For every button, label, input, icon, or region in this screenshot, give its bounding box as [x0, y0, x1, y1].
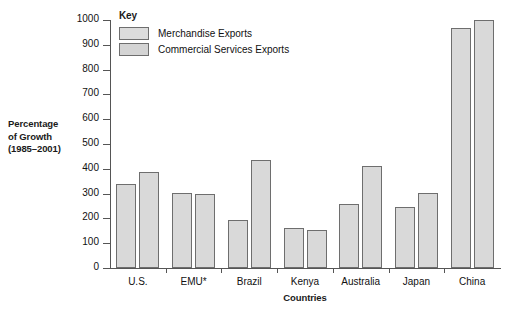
- legend-label-merchandise: Merchandise Exports: [158, 28, 252, 39]
- y-axis-tick: 1000: [103, 20, 110, 21]
- x-axis-tick: [221, 269, 222, 273]
- bar: [195, 194, 215, 268]
- legend-item-merchandise: Merchandise Exports: [119, 27, 289, 40]
- y-axis-tick-label: 600: [82, 112, 99, 123]
- y-axis-tick-label: 0: [93, 261, 99, 272]
- y-axis-tick-label: 500: [82, 137, 99, 148]
- legend: Key Merchandise Exports Commercial Servi…: [119, 10, 289, 59]
- bar: [251, 160, 271, 268]
- y-axis-line: [110, 20, 111, 269]
- y-axis-tick: 200: [103, 218, 110, 219]
- bar: [172, 193, 192, 268]
- bar: [139, 172, 159, 268]
- x-axis-category-label: Australia: [333, 276, 389, 287]
- x-axis-tick: [333, 269, 334, 273]
- y-axis-title-line-3: (1985–2001): [8, 143, 82, 156]
- y-axis-title: Percentage of Growth (1985–2001): [8, 118, 82, 156]
- bar: [474, 20, 494, 268]
- x-axis-category-label: China: [444, 276, 500, 287]
- legend-swatch-merchandise-icon: [119, 27, 149, 40]
- x-axis-category-label: U.S.: [110, 276, 166, 287]
- y-axis-tick-label: 800: [82, 63, 99, 74]
- y-axis-tick-label: 400: [82, 162, 99, 173]
- y-axis-tick-label: 300: [82, 187, 99, 198]
- bar: [418, 193, 438, 268]
- y-axis-tick-label: 200: [82, 211, 99, 222]
- y-axis-tick: 300: [103, 194, 110, 195]
- bar: [395, 207, 415, 268]
- x-axis-category-label: Kenya: [277, 276, 333, 287]
- y-axis-tick-label: 900: [82, 38, 99, 49]
- legend-swatch-commercial-icon: [119, 43, 149, 56]
- y-axis-title-line-1: Percentage: [8, 118, 82, 131]
- bar: [362, 166, 382, 268]
- x-axis-category-label: Japan: [389, 276, 445, 287]
- bar: [284, 228, 304, 268]
- bar-chart: Percentage of Growth (1985–2001) 0100200…: [0, 0, 512, 320]
- y-axis-tick: 0: [103, 268, 110, 269]
- y-axis-tick: 800: [103, 70, 110, 71]
- y-axis-tick: 400: [103, 169, 110, 170]
- x-axis-line: [110, 268, 501, 269]
- y-axis-tick-label: 700: [82, 87, 99, 98]
- y-axis-tick-label: 1000: [77, 13, 99, 24]
- x-axis-category-label: Brazil: [221, 276, 277, 287]
- x-axis-tick: [166, 269, 167, 273]
- bar: [339, 204, 359, 268]
- y-axis-tick: 600: [103, 119, 110, 120]
- legend-item-commercial: Commercial Services Exports: [119, 43, 289, 56]
- x-axis-title: Countries: [110, 292, 500, 303]
- bar: [228, 220, 248, 268]
- y-axis-tick: 500: [103, 144, 110, 145]
- x-axis-tick: [389, 269, 390, 273]
- x-axis-category-label: EMU*: [166, 276, 222, 287]
- bar: [451, 28, 471, 268]
- legend-label-commercial: Commercial Services Exports: [158, 44, 289, 55]
- y-axis-tick: 900: [103, 45, 110, 46]
- legend-title: Key: [119, 10, 289, 21]
- y-axis-tick-label: 100: [82, 236, 99, 247]
- x-axis-tick: [444, 269, 445, 273]
- bar: [116, 184, 136, 268]
- bar: [307, 230, 327, 268]
- x-axis-tick: [277, 269, 278, 273]
- y-axis-title-line-2: of Growth: [8, 131, 82, 144]
- y-axis-tick: 700: [103, 94, 110, 95]
- y-axis-tick: 100: [103, 243, 110, 244]
